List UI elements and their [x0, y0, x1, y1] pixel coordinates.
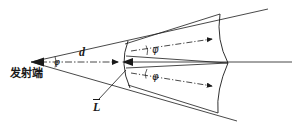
diagram-svg — [0, 0, 296, 124]
aperture-group — [122, 41, 133, 88]
lower-subcone-axis — [131, 73, 212, 86]
aperture-leader-line — [99, 70, 126, 99]
distance-label: d — [79, 46, 85, 58]
upper-subcone-angle-arc — [146, 46, 148, 56]
lower-subcone-bottom-edge — [128, 85, 218, 113]
figure-canvas: 发射端 d L φ φ φ — [0, 0, 296, 124]
main-cone-lower-edge — [31, 62, 237, 121]
upper-angle-label: φ — [152, 45, 159, 55]
right-arc-upper — [219, 14, 228, 63]
main-cone-upper-edge — [31, 9, 268, 62]
aperture-leader-group — [99, 70, 126, 99]
transmitter-label: 发射端 — [10, 68, 43, 79]
lower-subcone-group — [126, 63, 228, 113]
upper-subcone-axis — [131, 39, 212, 51]
apex-angle-label: φ — [54, 58, 60, 67]
lower-angle-label: φ — [152, 72, 159, 82]
upper-subcone-top-edge — [125, 14, 220, 44]
right-arc-lower — [218, 63, 228, 113]
aperture-label: L — [93, 99, 100, 113]
lower-subcone-angle-arc — [145, 69, 147, 79]
lower-subcone-top-edge — [126, 63, 228, 68]
main-cone-group — [31, 9, 268, 121]
aperture-label-text: L — [93, 99, 100, 113]
